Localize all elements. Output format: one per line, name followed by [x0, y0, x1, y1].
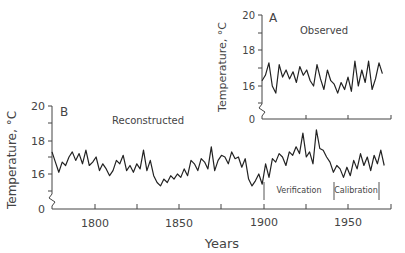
- panel-b-ytick-16: 16: [31, 168, 45, 181]
- panel-a-ytick-16: 16: [242, 81, 255, 92]
- panel-a-title: Observed: [300, 25, 348, 36]
- panel-b-reconstructed-line: [52, 130, 384, 186]
- panel-b-ytick-20: 20: [31, 100, 45, 113]
- panel-b-ytick-0: 0: [38, 203, 45, 216]
- panel-a-ytick-18: 18: [242, 45, 255, 56]
- panel-b-title: Reconstructed: [112, 115, 184, 126]
- panel-b-ytick-18: 18: [31, 135, 45, 148]
- panel-a-ylabel: Temperature, °C: [216, 22, 229, 113]
- panel-a-axis-break: [259, 104, 265, 119]
- panel-b-xtick-1950: 1950: [334, 216, 362, 229]
- verification-label: Verification: [277, 186, 322, 195]
- panel-a-ytick-0: 0: [249, 114, 255, 125]
- panel-a-observed-line: [262, 61, 382, 93]
- panel-b-axis-break: [49, 194, 55, 209]
- panel-b-xtick-1800: 1800: [81, 217, 109, 230]
- panel-a: Temperature, °C 20 18 16 0 A Observed: [216, 10, 391, 125]
- panel-a-ytick-20: 20: [242, 10, 255, 21]
- panel-b-xtick-1900: 1900: [250, 216, 278, 229]
- panel-b-xtick-1850: 1850: [165, 217, 193, 230]
- figure: Temperature, °C 20 18 16 0 A Observed Te…: [0, 0, 405, 253]
- panel-a-label: A: [269, 11, 278, 25]
- panel-b-xlabel: Years: [204, 236, 240, 251]
- panel-b: Temperature, °C 20 18 16 0 1800 1850 190…: [5, 100, 391, 251]
- panel-b-label: B: [60, 105, 68, 119]
- panel-b-ylabel: Temperature, °C: [5, 111, 19, 210]
- calibration-label: Calibration: [334, 186, 378, 195]
